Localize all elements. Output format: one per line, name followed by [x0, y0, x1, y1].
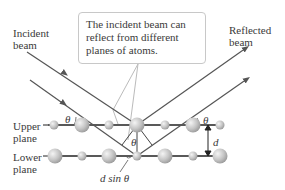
- callout-text: The incident beam can reflect from diffe…: [86, 18, 186, 56]
- reflected-beam-label: Reflected beam: [229, 24, 271, 48]
- lower-plane-label: Lower plane: [13, 151, 42, 175]
- incident-beams: [27, 52, 137, 156]
- d-label: d: [213, 136, 219, 148]
- d-sin-theta-label: d sin θ: [100, 172, 129, 184]
- d-dimension-arrow: [205, 125, 211, 156]
- theta-right-label: θ: [203, 114, 208, 126]
- callout-box: The incident beam can reflect from diffe…: [78, 12, 206, 64]
- theta-left-label: θ: [65, 113, 70, 125]
- theta-center-label: θ: [131, 136, 136, 148]
- incident-beam-label: Incident beam: [13, 27, 49, 51]
- reflected-beams: [137, 48, 247, 156]
- upper-plane-label: Upper plane: [13, 120, 41, 144]
